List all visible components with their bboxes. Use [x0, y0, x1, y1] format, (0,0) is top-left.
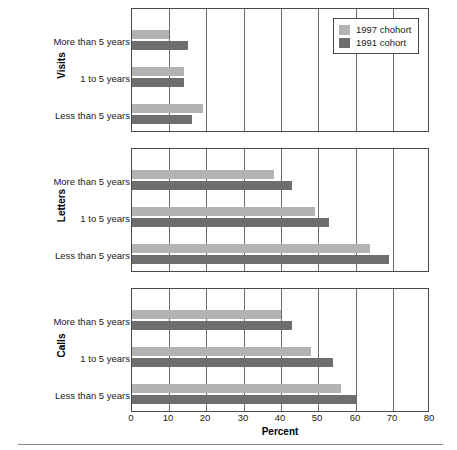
legend-swatch-1991-icon [339, 38, 350, 48]
bar-letters-mid-1991 [132, 218, 329, 227]
category-label-1-to-5-years: 1 to 5 years [0, 354, 130, 364]
plot-area-calls [131, 288, 429, 412]
bar-visits-mid-1997 [132, 67, 184, 76]
category-label-less-than-5-years: Less than 5 years [0, 251, 130, 261]
x-axis: 0 10 20 30 40 50 60 70 80 [131, 412, 429, 426]
bar-visits-less-1997 [132, 104, 203, 113]
gridline-70 [393, 289, 394, 411]
bar-calls-less-1991 [132, 395, 356, 404]
bar-calls-more-1997 [132, 310, 281, 319]
x-tick-70: 70 [380, 412, 404, 423]
legend-item-1997: 1997 chohort [339, 23, 411, 36]
panel-visits: Visits More than 5 years 1 to 5 years Le… [0, 8, 457, 143]
bar-calls-mid-1991 [132, 358, 333, 367]
gridline-70 [393, 149, 394, 271]
bar-letters-less-1991 [132, 255, 389, 264]
bar-letters-mid-1997 [132, 207, 315, 216]
x-tick-20: 20 [193, 412, 217, 423]
category-label-more-than-5-years: More than 5 years [0, 177, 130, 187]
plot-area-visits: 1997 chohort 1991 cohort [131, 8, 429, 132]
footer-divider [18, 444, 443, 445]
bar-letters-more-1997 [132, 170, 274, 179]
x-tick-80: 80 [417, 412, 441, 423]
panel-title-letters: Letters [56, 161, 67, 251]
bar-calls-mid-1997 [132, 347, 311, 356]
legend-swatch-1997-icon [339, 25, 350, 35]
panel-letters: Letters More than 5 years 1 to 5 years L… [0, 148, 457, 283]
gridline-50 [318, 9, 319, 131]
x-tick-60: 60 [343, 412, 367, 423]
x-axis-title: Percent [131, 426, 429, 437]
gridline-20 [206, 9, 207, 131]
gridline-60 [356, 289, 357, 411]
bar-visits-less-1991 [132, 115, 192, 124]
chart-figure: Visits More than 5 years 1 to 5 years Le… [0, 0, 457, 450]
x-tick-40: 40 [268, 412, 292, 423]
category-label-more-than-5-years: More than 5 years [0, 37, 130, 47]
legend-label-1997: 1997 chohort [356, 24, 411, 35]
bar-calls-less-1997 [132, 384, 341, 393]
x-tick-0: 0 [119, 412, 143, 423]
bar-visits-more-1997 [132, 30, 169, 39]
category-label-less-than-5-years: Less than 5 years [0, 111, 130, 121]
panel-calls: Calls More than 5 years 1 to 5 years Les… [0, 288, 457, 423]
bar-letters-more-1991 [132, 181, 292, 190]
bar-visits-mid-1991 [132, 78, 184, 87]
chart-legend: 1997 chohort 1991 cohort [333, 18, 419, 54]
gridline-30 [244, 9, 245, 131]
gridline-40 [281, 9, 282, 131]
bar-calls-more-1991 [132, 321, 292, 330]
x-tick-50: 50 [305, 412, 329, 423]
panel-title-visits: Visits [56, 21, 67, 111]
x-tick-10: 10 [156, 412, 180, 423]
legend-item-1991: 1991 cohort [339, 36, 411, 49]
category-label-more-than-5-years: More than 5 years [0, 317, 130, 327]
bar-visits-more-1991 [132, 41, 188, 50]
panel-title-calls: Calls [56, 301, 67, 391]
plot-area-letters [131, 148, 429, 272]
category-label-1-to-5-years: 1 to 5 years [0, 74, 130, 84]
category-label-less-than-5-years: Less than 5 years [0, 391, 130, 401]
bar-letters-less-1997 [132, 244, 370, 253]
legend-label-1991: 1991 cohort [356, 37, 406, 48]
x-tick-30: 30 [231, 412, 255, 423]
category-label-1-to-5-years: 1 to 5 years [0, 214, 130, 224]
